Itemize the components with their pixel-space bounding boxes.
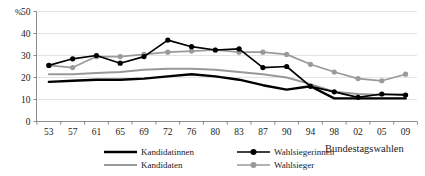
data-point (165, 38, 170, 43)
data-point (94, 53, 99, 58)
legend-marker (251, 149, 257, 155)
series-kandidaten (49, 69, 406, 95)
data-point (118, 61, 123, 66)
series-layer (46, 38, 408, 100)
data-point (403, 72, 408, 77)
x-tick-label: 98 (329, 127, 339, 137)
x-tick-label: 72 (163, 127, 173, 137)
legend-item-kandidatinnen[interactable]: Kandidatinnen (104, 147, 194, 157)
y-tick-labels: 01020304050 (21, 7, 31, 127)
y-tick-label: 10 (21, 95, 31, 105)
x-tick-label: 83 (234, 127, 244, 137)
legend-group: KandidatinnenKandidatenWahlsiegerinnenWa… (104, 147, 335, 170)
legend-label: Kandidaten (141, 160, 183, 170)
x-tick-label: 65 (115, 127, 125, 137)
data-point (260, 65, 265, 70)
x-tick-label: 53 (44, 127, 54, 137)
axes-group (34, 12, 418, 125)
data-point (260, 50, 265, 55)
data-point (332, 89, 337, 94)
data-point (237, 46, 242, 51)
data-point (70, 65, 75, 70)
y-axis-unit-label: % (15, 7, 22, 17)
x-tick-label: 69 (139, 127, 149, 137)
data-point (165, 50, 170, 55)
x-tick-label: 80 (211, 127, 221, 137)
legend-label: Kandidatinnen (141, 147, 194, 157)
series-line (49, 50, 406, 81)
x-tick-label: 57 (68, 127, 78, 137)
series-line (49, 69, 406, 95)
y-tick-label: 0 (26, 117, 31, 127)
data-point (403, 93, 408, 98)
legend-item-wahlsieger[interactable]: Wahlsieger (237, 160, 314, 170)
chart-container: 01020304050 5357616569727680838790949802… (0, 0, 425, 176)
legend-marker (251, 162, 257, 168)
data-point (332, 69, 337, 74)
y-tick-label: 20 (21, 73, 31, 83)
data-point (284, 52, 289, 57)
line-chart: 01020304050 5357616569727680838790949802… (0, 0, 425, 176)
data-point (189, 44, 194, 49)
data-point (355, 95, 360, 100)
data-point (355, 76, 360, 81)
data-point (213, 47, 218, 52)
series-line (49, 40, 406, 97)
x-tick-label: 09 (401, 127, 411, 137)
data-point (379, 91, 384, 96)
data-point (118, 54, 123, 59)
data-point (46, 63, 51, 68)
series-wahlsiegerinnen (46, 38, 408, 100)
x-tick-label: 94 (306, 127, 316, 137)
legend-item-kandidaten[interactable]: Kandidaten (104, 160, 183, 170)
y-tick-label: 50 (21, 7, 31, 17)
x-tick-labels: 53576165697276808387909498020509 (44, 127, 410, 137)
data-point (141, 54, 146, 59)
x-tick-label: 87 (258, 127, 268, 137)
data-point (70, 56, 75, 61)
x-tick-label: 90 (282, 127, 292, 137)
data-point (284, 64, 289, 69)
x-axis-title: Bundestagswahlen (325, 143, 404, 154)
data-point (308, 84, 313, 89)
x-tick-label: 05 (377, 127, 387, 137)
gridlines-group (37, 12, 418, 122)
legend-item-wahlsiegerinnen[interactable]: Wahlsiegerinnen (237, 147, 335, 157)
y-tick-label: 40 (21, 29, 31, 39)
data-point (308, 62, 313, 67)
data-point (379, 78, 384, 83)
y-tick-label: 30 (21, 51, 31, 61)
x-tick-label: 76 (187, 127, 197, 137)
x-tick-label: 61 (92, 127, 102, 137)
x-tick-label: 02 (353, 127, 363, 137)
legend-label: Wahlsieger (274, 160, 314, 170)
